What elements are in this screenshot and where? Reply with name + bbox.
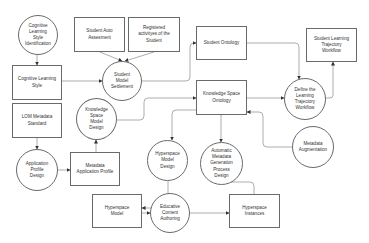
- node-label: Student Model Settlement: [109, 72, 135, 91]
- student-ontology-node: Student Ontology: [196, 26, 247, 60]
- cognitive-learning-style-identification-node: Cognitive Learning Style Identification: [18, 15, 58, 55]
- metadata-augmentation-node: Metadata Augmentation: [292, 126, 334, 168]
- application-profile-design-node: Application Profile Design: [16, 149, 58, 191]
- knowledge-space-ontology-node: Knowledge Space Ontology: [196, 80, 247, 115]
- node-label: Student Ontology: [202, 40, 242, 46]
- node-label: Hyperspace Instances: [240, 205, 269, 217]
- node-label: Registered activityes of the Student: [136, 25, 172, 44]
- hyperspace-model-design-node: Hyperspace Model Design: [147, 140, 188, 181]
- node-label: Automatic Metadata Generation Process De…: [208, 148, 235, 179]
- node-label: Cognitive Learning Style: [16, 76, 58, 88]
- student-auto-assesment-node: Student Auto Assesment: [74, 17, 125, 52]
- process-diagram: Cognitive Learning Style Identification …: [0, 0, 369, 243]
- node-label: Application Profile Design: [24, 161, 50, 180]
- student-model-settlement-node: Student Model Settlement: [102, 61, 142, 101]
- cognitive-learning-style-node: Cognitive Learning Style: [12, 65, 62, 100]
- define-learning-trajectory-workflow-node: Define the Learning Trajectory Workflow: [284, 78, 326, 120]
- node-label: Metadata Augmentation: [297, 141, 329, 153]
- node-label: Metadata Application Profile: [75, 163, 116, 175]
- educative-content-authoring-node: Educative Content Authoring: [150, 193, 190, 233]
- lom-metadata-standard-node: LOM Metadata Standard: [12, 103, 62, 138]
- student-learning-trajectory-workflow-node: Student Learning Trajectory Workflow: [306, 28, 357, 62]
- knowledge-space-model-design-node: Knowledge Space Model Design: [76, 98, 117, 140]
- node-label: Hyperspace Model: [103, 205, 132, 217]
- hyperspace-model-node: Hyperspace Model: [92, 194, 142, 228]
- metadata-application-profile-node: Metadata Application Profile: [70, 152, 120, 186]
- registered-activities-node: Registered activityes of the Student: [128, 17, 180, 52]
- node-label: Cognitive Learning Style Identification: [23, 23, 53, 48]
- automatic-metadata-generation-node: Automatic Metadata Generation Process De…: [200, 142, 243, 185]
- node-label: Student Auto Assesment: [84, 28, 114, 40]
- node-label: Educative Content Authoring: [158, 204, 182, 223]
- node-label: Define the Learning Trajectory Workflow: [293, 87, 318, 112]
- node-label: Student Learning Trajectory Workflow: [312, 36, 351, 55]
- node-label: Knowledge Space Model Design: [83, 107, 110, 132]
- hyperspace-instances-node: Hyperspace Instances: [229, 194, 280, 228]
- node-label: LOM Metadata Standard: [20, 114, 54, 126]
- node-label: Hyperspace Model Design: [153, 151, 182, 170]
- node-label: Knowledge Space Ontology: [201, 91, 242, 103]
